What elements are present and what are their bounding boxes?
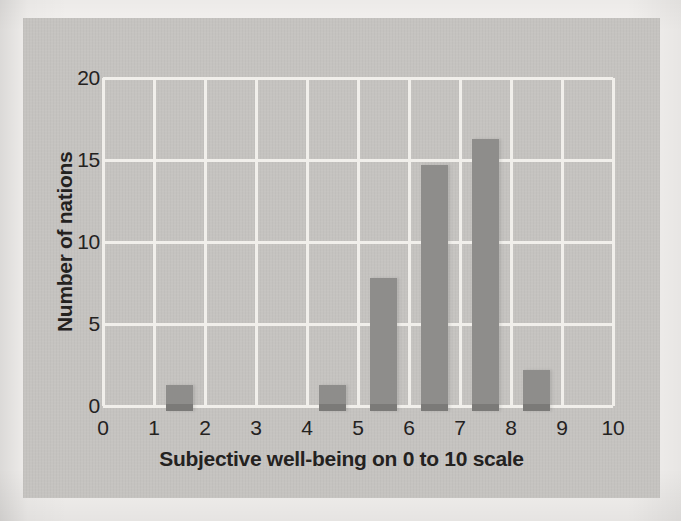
bar-base bbox=[421, 404, 448, 411]
x-tick-label: 10 bbox=[585, 415, 641, 441]
y-gridline bbox=[103, 323, 613, 326]
x-tick-label: 4 bbox=[279, 415, 335, 441]
y-gridline bbox=[103, 241, 613, 244]
x-tick-label: 6 bbox=[381, 415, 437, 441]
bar bbox=[472, 139, 499, 411]
plot-area bbox=[103, 78, 613, 406]
y-tick-label: 5 bbox=[43, 311, 100, 337]
x-tick-label: 7 bbox=[432, 415, 488, 441]
x-tick-label: 2 bbox=[177, 415, 233, 441]
y-gridline bbox=[103, 159, 613, 162]
y-tick-label: 10 bbox=[43, 229, 100, 255]
x-axis-title: Subjective well-being on 0 to 10 scale bbox=[23, 447, 660, 471]
y-tick-label: 15 bbox=[43, 147, 100, 173]
y-gridline bbox=[103, 77, 613, 80]
bar-base bbox=[472, 404, 499, 411]
x-tick-label: 3 bbox=[228, 415, 284, 441]
bar-base bbox=[166, 404, 193, 411]
x-tick-label: 8 bbox=[483, 415, 539, 441]
bar-base bbox=[370, 404, 397, 411]
x-tick-label: 9 bbox=[534, 415, 590, 441]
bar bbox=[421, 165, 448, 411]
y-tick-label: 0 bbox=[43, 393, 100, 419]
x-tick-label: 1 bbox=[126, 415, 182, 441]
bar bbox=[166, 385, 193, 411]
bar bbox=[319, 385, 346, 411]
figure-page: Number of nations Subjective well-being … bbox=[0, 0, 681, 521]
bar-base bbox=[523, 404, 550, 411]
y-tick-label: 20 bbox=[43, 65, 100, 91]
bar bbox=[370, 278, 397, 411]
x-tick-label: 5 bbox=[330, 415, 386, 441]
chart-panel: Number of nations Subjective well-being … bbox=[23, 18, 660, 498]
bar-base bbox=[319, 404, 346, 411]
bar bbox=[523, 370, 550, 411]
